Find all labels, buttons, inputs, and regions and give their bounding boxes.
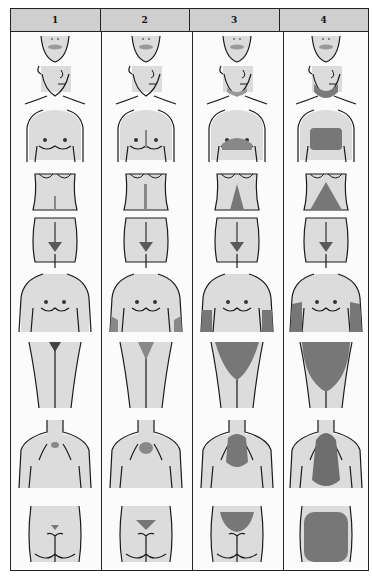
row-lower-abdomen bbox=[33, 218, 348, 268]
row-thigh bbox=[29, 342, 352, 408]
row-upper-lip bbox=[41, 36, 340, 62]
row-upper-arm bbox=[19, 274, 362, 332]
row-upper-back bbox=[19, 420, 362, 488]
body-illustrations bbox=[0, 0, 372, 578]
row-lower-back bbox=[29, 506, 352, 562]
row-upper-abdomen bbox=[33, 174, 348, 210]
row-chin bbox=[25, 66, 356, 104]
row-chest bbox=[27, 110, 354, 162]
